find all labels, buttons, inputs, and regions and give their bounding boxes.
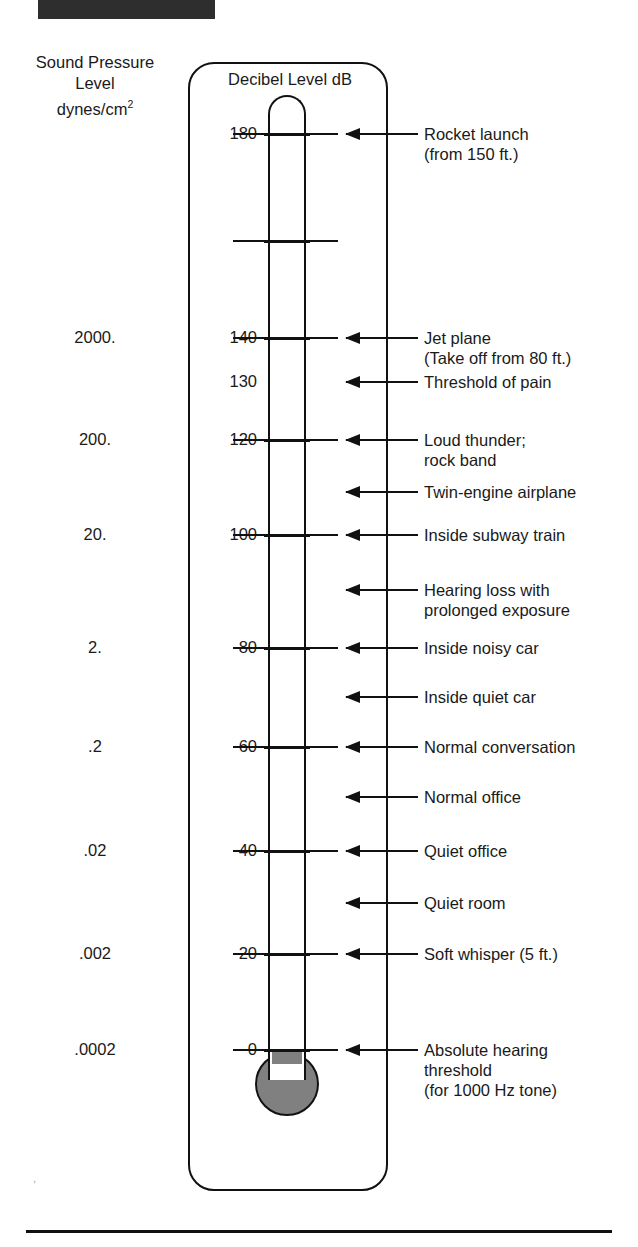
sound-source-label-line: Inside noisy car [424, 638, 634, 658]
sound-source-label-line: (Take off from 80 ft.) [424, 348, 634, 368]
scale-tick-mark [264, 953, 310, 956]
scale-tick-mark [306, 337, 338, 339]
callout-arrow-icon [346, 337, 418, 339]
scale-tick-mark [264, 240, 310, 243]
sound-source-label-line: Absolute hearing [424, 1040, 634, 1060]
scale-tick-mark [233, 133, 268, 135]
sound-source-label-line: Threshold of pain [424, 372, 634, 392]
callout-arrow-icon [346, 696, 418, 698]
sound-source-label-line: Quiet office [424, 841, 634, 861]
sound-pressure-value: .02 [10, 842, 180, 859]
callout-arrow-icon [346, 850, 418, 852]
callout-arrow-icon [346, 902, 418, 904]
sound-source-label: Twin-engine airplane [424, 482, 634, 502]
callout-arrow-icon [346, 647, 418, 649]
sound-pressure-value: 200. [10, 431, 180, 448]
sound-source-label-line: Inside subway train [424, 525, 634, 545]
scale-tick-mark [233, 953, 268, 955]
sound-source-label-line: Normal office [424, 787, 634, 807]
scale-tick-mark [233, 647, 268, 649]
sound-source-label: Quiet office [424, 841, 634, 861]
spl-header-line-2: Level [10, 73, 180, 94]
sound-source-label: Threshold of pain [424, 372, 634, 392]
decibel-level-title: Decibel Level dB [200, 70, 380, 89]
sound-source-label-line: rock band [424, 450, 634, 470]
scale-tick-mark [264, 337, 310, 340]
callout-arrow-icon [346, 133, 418, 135]
sound-source-label: Loud thunder;rock band [424, 430, 634, 470]
sound-source-label: Hearing loss withprolonged exposure [424, 580, 634, 620]
sound-source-label: Rocket launch(from 150 ft.) [424, 124, 634, 164]
top-black-bar [38, 0, 215, 19]
sound-pressure-value: .2 [10, 738, 180, 755]
spl-header-line-1: Sound Pressure [10, 52, 180, 73]
callout-arrow-icon [346, 589, 418, 591]
sound-source-label: Jet plane(Take off from 80 ft.) [424, 328, 634, 368]
callout-arrow-icon [346, 491, 418, 493]
scale-tick-mark [264, 647, 310, 650]
sound-source-label-line: Hearing loss with [424, 580, 634, 600]
callout-arrow-icon [346, 381, 418, 383]
decibel-tick-label: 130 [185, 373, 257, 390]
sound-pressure-value: 2. [10, 639, 180, 656]
bottom-rule [26, 1230, 612, 1233]
sound-source-label-line: prolonged exposure [424, 600, 634, 620]
scale-tick-mark [233, 337, 268, 339]
sound-pressure-value: 20. [10, 526, 180, 543]
scale-tick-mark [233, 746, 268, 748]
scale-tick-mark [306, 439, 338, 441]
callout-arrow-icon [346, 439, 418, 441]
sound-source-label-line: Jet plane [424, 328, 634, 348]
stray-speck: , [33, 1172, 38, 1181]
sound-source-label-line: Soft whisper (5 ft.) [424, 944, 634, 964]
sound-source-label-line: Rocket launch [424, 124, 634, 144]
scale-tick-mark [306, 534, 338, 536]
thermometer-tube [268, 95, 306, 1080]
spl-units-text: dynes/cm [57, 100, 128, 118]
scale-tick-mark [233, 439, 268, 441]
sound-source-label: Soft whisper (5 ft.) [424, 944, 634, 964]
scale-tick-mark [306, 746, 338, 748]
scale-tick-mark [233, 850, 268, 852]
scale-tick-mark [264, 534, 310, 537]
sound-source-label-line: Quiet room [424, 893, 634, 913]
scale-tick-mark [264, 746, 310, 749]
sound-source-label-line: (from 150 ft.) [424, 144, 634, 164]
sound-source-label-line: Normal conversation [424, 737, 634, 757]
figure-page: IN DECIBELS Sound Pressure Level dynes/c… [0, 0, 638, 1247]
scale-tick-mark [233, 240, 268, 242]
scale-tick-mark [233, 1049, 268, 1051]
scale-tick-mark [306, 1049, 338, 1051]
scale-tick-mark [233, 534, 268, 536]
bulb-neck-joint [272, 1050, 302, 1064]
scale-tick-mark [264, 439, 310, 442]
callout-arrow-icon [346, 953, 418, 955]
sound-source-label-line: threshold [424, 1060, 634, 1080]
scale-tick-mark [306, 647, 338, 649]
sound-source-label-line: Loud thunder; [424, 430, 634, 450]
sound-pressure-value: 2000. [10, 329, 180, 346]
callout-arrow-icon [346, 1049, 418, 1051]
sound-source-label: Normal conversation [424, 737, 634, 757]
sound-source-label: Inside quiet car [424, 687, 634, 707]
sound-source-label-line: Twin-engine airplane [424, 482, 634, 502]
sound-source-label: Inside subway train [424, 525, 634, 545]
sound-source-label: Absolute hearingthreshold(for 1000 Hz to… [424, 1040, 634, 1100]
scale-tick-mark [264, 850, 310, 853]
scale-tick-mark [264, 133, 310, 136]
scale-tick-mark [306, 953, 338, 955]
sound-pressure-value: .0002 [10, 1041, 180, 1058]
sound-pressure-value: .002 [10, 945, 180, 962]
sound-source-label: Quiet room [424, 893, 634, 913]
scale-tick-mark [306, 133, 338, 135]
spl-units-exponent: 2 [127, 98, 133, 110]
scale-tick-mark [306, 850, 338, 852]
scale-tick-mark [264, 1049, 310, 1052]
sound-source-label: Inside noisy car [424, 638, 634, 658]
callout-arrow-icon [346, 746, 418, 748]
scale-tick-mark [306, 240, 338, 242]
sound-source-label-line: Inside quiet car [424, 687, 634, 707]
sound-source-label-line: (for 1000 Hz tone) [424, 1080, 634, 1100]
callout-arrow-icon [346, 534, 418, 536]
sound-source-label: Normal office [424, 787, 634, 807]
